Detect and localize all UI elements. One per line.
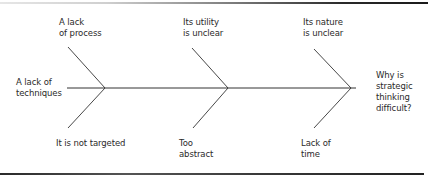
bone-bottom-2	[193, 88, 228, 128]
cause-label-nature-unclear: Its nature is unclear	[303, 17, 343, 39]
cause-line: Its nature	[303, 17, 343, 28]
cause-label-lack-of-techniques: A lack of techniques	[16, 77, 62, 99]
cause-line: A lack	[59, 17, 102, 28]
cause-line: It is not targeted	[56, 138, 125, 149]
cause-line: of process	[59, 28, 102, 39]
cause-label-utility-unclear: Its utility is unclear	[183, 17, 223, 39]
bottom-border-rule	[0, 173, 424, 175]
cause-line: techniques	[16, 88, 62, 99]
bone-top-1	[68, 47, 105, 88]
cause-line: is unclear	[303, 28, 343, 39]
cause-label-not-targeted: It is not targeted	[56, 138, 125, 149]
cause-label-lack-of-process: A lack of process	[59, 17, 102, 39]
cause-line: Lack of	[301, 138, 331, 149]
cause-line: Its utility	[183, 17, 223, 28]
cause-line: time	[301, 149, 331, 160]
effect-line: strategic	[376, 81, 413, 92]
cause-line: abstract	[179, 149, 213, 160]
bone-bottom-1	[68, 88, 105, 128]
cause-label-too-abstract: Too abstract	[179, 138, 213, 160]
cause-line: is unclear	[183, 28, 223, 39]
effect-line: difficult?	[376, 103, 413, 114]
cause-line: Too	[179, 138, 213, 149]
effect-line: Why is	[376, 70, 413, 81]
bone-top-3	[314, 49, 351, 88]
cause-label-lack-of-time: Lack of time	[301, 138, 331, 160]
bone-top-2	[192, 48, 228, 88]
effect-line: thinking	[376, 92, 413, 103]
effect-label: Why is strategic thinking difficult?	[376, 70, 413, 114]
bone-bottom-3	[314, 88, 351, 128]
cause-line: A lack of	[16, 77, 62, 88]
